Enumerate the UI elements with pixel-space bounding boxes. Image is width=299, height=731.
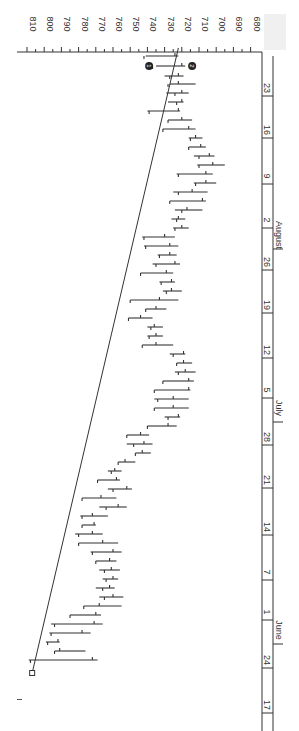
ohlc-bar bbox=[99, 594, 123, 600]
ohlc-bar bbox=[99, 567, 120, 573]
price-bars bbox=[29, 53, 225, 663]
ohlc-bar bbox=[84, 603, 122, 609]
date-tick-label: 5 bbox=[262, 387, 272, 392]
ohlc-bar bbox=[51, 621, 103, 627]
ohlc-bar bbox=[173, 225, 188, 231]
ohlc-bar bbox=[153, 63, 186, 69]
ohlc-bar bbox=[165, 73, 184, 79]
ohlc-bar bbox=[158, 252, 177, 258]
price-axis: 8108007907807707607507407307207107006906… bbox=[17, 16, 262, 52]
ohlc-bar bbox=[147, 333, 162, 339]
ohlc-bar bbox=[128, 315, 152, 321]
ohlc-bar bbox=[130, 297, 178, 303]
price-tick-label: 810 bbox=[28, 16, 38, 31]
date-tick-label: 14 bbox=[262, 522, 272, 532]
ohlc-bar bbox=[79, 540, 119, 546]
date-tick-label: 1 bbox=[262, 609, 272, 614]
ohlc-bar bbox=[144, 53, 178, 59]
price-tick-label: 740 bbox=[148, 16, 158, 31]
price-tick-label: 800 bbox=[45, 16, 55, 31]
ohlc-bar bbox=[80, 513, 108, 519]
ohlc-bar bbox=[175, 369, 196, 375]
ohlc-bar bbox=[154, 387, 190, 393]
price-tick-label: 750 bbox=[131, 16, 141, 31]
date-tick-label: 21 bbox=[262, 475, 272, 485]
trendline-anchor-square bbox=[30, 671, 35, 676]
ohlc-bar bbox=[108, 486, 132, 492]
stray-mark bbox=[17, 699, 22, 700]
price-tick-label: 720 bbox=[183, 16, 193, 31]
ohlc-bar bbox=[165, 414, 180, 420]
price-tick-label: 680 bbox=[252, 16, 262, 31]
price-tick-label: 690 bbox=[234, 16, 244, 31]
ohlc-bar bbox=[153, 261, 181, 267]
ohlc-bar bbox=[147, 423, 176, 429]
date-tick-label: 17 bbox=[262, 700, 272, 710]
price-tick-label: 700 bbox=[217, 16, 227, 31]
ohlc-bar bbox=[171, 216, 185, 222]
ohlc-bar bbox=[159, 279, 174, 285]
ohlc-bar bbox=[82, 522, 96, 528]
ohlc-bar bbox=[141, 270, 174, 276]
ohlc-bar bbox=[175, 207, 203, 213]
date-tick-label: 9 bbox=[262, 173, 272, 178]
ohlc-bar bbox=[147, 324, 162, 330]
ohlc-bar bbox=[170, 351, 185, 357]
month-label: June bbox=[274, 620, 284, 640]
ohlc-bar bbox=[163, 126, 196, 132]
ohlc-bar bbox=[197, 162, 225, 168]
ohlc-bar bbox=[142, 342, 173, 348]
trendline bbox=[30, 48, 179, 676]
ohlc-bar bbox=[168, 99, 183, 105]
ohlc-bar bbox=[55, 648, 86, 654]
price-tick-label: 780 bbox=[80, 16, 90, 31]
ohlc-bar bbox=[163, 378, 194, 384]
ohlc-bar bbox=[118, 459, 135, 465]
ohlc-bar bbox=[189, 135, 203, 141]
price-tick-label: 770 bbox=[97, 16, 107, 31]
month-label: July bbox=[274, 400, 284, 417]
date-tick-label: 23 bbox=[262, 83, 272, 93]
price-tick-label: 710 bbox=[200, 16, 210, 31]
ohlc-bar bbox=[170, 198, 206, 204]
price-tick-label: 730 bbox=[166, 16, 176, 31]
ohlc-bar bbox=[108, 468, 122, 474]
ohlc-bar bbox=[46, 639, 60, 645]
date-tick-label: 2 bbox=[262, 217, 272, 222]
date-tick-label: 7 bbox=[262, 569, 272, 574]
ohlc-bar bbox=[163, 288, 182, 294]
ohlc-bar bbox=[99, 504, 127, 510]
ohlc-bar bbox=[154, 405, 188, 411]
ohlc-bar bbox=[173, 189, 207, 195]
ohlc-bar bbox=[29, 657, 98, 663]
ohlc-bar bbox=[194, 153, 215, 159]
date-axis: 1724171421285121926291623JuneJulyAugust bbox=[262, 52, 284, 731]
price-tick-label: 760 bbox=[114, 16, 124, 31]
ohlc-bar bbox=[168, 117, 192, 123]
date-tick-label: 28 bbox=[262, 432, 272, 442]
ohlc-bar bbox=[146, 306, 167, 312]
ohlc-bar bbox=[168, 81, 196, 87]
date-tick-label: 19 bbox=[262, 300, 272, 310]
ohlc-bar bbox=[91, 549, 122, 555]
ohlc-bar bbox=[70, 612, 101, 618]
ohlc-bar bbox=[142, 234, 175, 240]
ohlc-bar bbox=[98, 477, 120, 483]
ohlc-chart: 8108007907807707607507407307207107006906… bbox=[0, 0, 299, 731]
date-tick-label: 24 bbox=[262, 655, 272, 665]
price-tick-label: 790 bbox=[62, 16, 72, 31]
ohlc-bar bbox=[194, 180, 216, 186]
month-label: August bbox=[274, 221, 284, 250]
ohlc-bar bbox=[49, 630, 90, 636]
ohlc-bar bbox=[166, 90, 188, 96]
ohlc-bar bbox=[75, 531, 103, 537]
ohlc-bar bbox=[82, 495, 116, 501]
ohlc-bar bbox=[96, 558, 117, 564]
ohlc-bar bbox=[127, 432, 149, 438]
ohlc-bar bbox=[96, 585, 115, 591]
ohlc-bar bbox=[177, 171, 213, 177]
ohlc-bar bbox=[177, 360, 192, 366]
date-tick-label: 16 bbox=[262, 125, 272, 135]
ohlc-bar bbox=[135, 450, 150, 456]
numbered-marker: 1 bbox=[145, 62, 153, 70]
